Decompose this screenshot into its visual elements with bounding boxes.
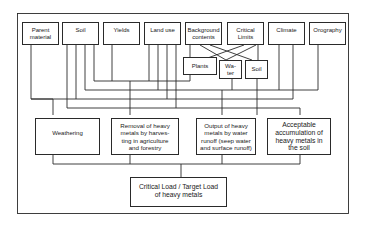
box-land-use: Land use bbox=[144, 22, 181, 45]
box-parent-material: Parent material bbox=[22, 22, 59, 45]
box-yields: Yields bbox=[103, 22, 140, 45]
box-plants: Plants bbox=[183, 57, 217, 75]
box-critical-load: Critical Load / Target Load of heavy met… bbox=[130, 177, 227, 207]
box-removal: Removal of heavy metals by harves- ting … bbox=[111, 118, 179, 155]
box-orography: Orography bbox=[309, 22, 346, 45]
box-output: Output of heavy metals by water runoff (… bbox=[196, 118, 256, 155]
box-soil-sub: Soil bbox=[245, 60, 268, 79]
box-climate: Climate bbox=[268, 22, 305, 45]
box-weathering: Weathering bbox=[35, 118, 100, 155]
box-acceptable: Acceptable accumulation of heavy metals … bbox=[267, 118, 331, 155]
box-background-contents: Background contents bbox=[185, 22, 222, 45]
box-water: Wa- ter bbox=[219, 60, 242, 79]
box-soil: Soil bbox=[62, 22, 99, 45]
box-critical-limits: Critical Limits bbox=[227, 22, 264, 45]
